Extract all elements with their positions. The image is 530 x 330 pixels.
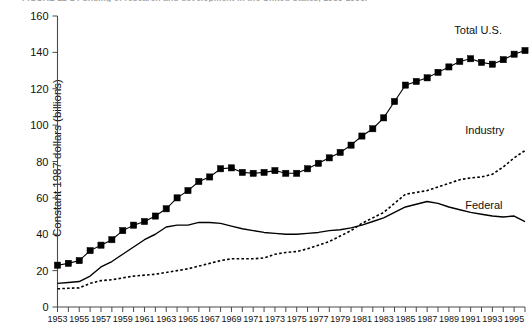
x-tick-label: 1985 (395, 314, 415, 324)
data-point-marker (163, 206, 169, 212)
y-tick-label: 60 (36, 192, 48, 204)
data-point-marker (294, 170, 300, 176)
y-tick-label: 140 (30, 46, 48, 58)
series-layer (54, 47, 528, 288)
x-tick-label: 1993 (482, 314, 502, 324)
data-point-marker (489, 61, 495, 67)
x-tick-label: 1963 (156, 314, 176, 324)
data-point-marker (446, 64, 452, 70)
data-point-marker (370, 126, 376, 132)
x-tick-label: 1959 (113, 314, 133, 324)
x-tick-label: 1969 (221, 314, 241, 324)
rd-funding-line-chart: 020406080100120140160 195319551957195919… (0, 0, 530, 330)
y-axis-group: 020406080100120140160 (30, 10, 57, 313)
x-tick-label: 1987 (417, 314, 437, 324)
data-point-marker (424, 75, 430, 81)
y-tick-label: 80 (36, 156, 48, 168)
data-point-marker (250, 170, 256, 176)
data-point-marker (76, 258, 82, 264)
x-tick-label: 1977 (308, 314, 328, 324)
x-tick-label: 1975 (287, 314, 307, 324)
data-point-marker (65, 260, 71, 266)
y-tick-label: 160 (30, 10, 48, 22)
series-markers-total-u-s (54, 47, 528, 268)
x-tick-label: 1973 (265, 314, 285, 324)
data-point-marker (98, 242, 104, 248)
x-tick-label: 1983 (374, 314, 394, 324)
data-point-marker (283, 170, 289, 176)
data-point-marker (152, 213, 158, 219)
y-tick-label: 100 (30, 119, 48, 131)
x-tick-label: 1961 (134, 314, 154, 324)
x-tick-group: 1953195519571959196119631965196719691971… (47, 307, 525, 324)
data-point-marker (337, 149, 343, 155)
data-point-marker (500, 57, 506, 63)
data-point-marker (185, 188, 191, 194)
data-point-marker (435, 69, 441, 75)
y-tick-label: 40 (36, 228, 48, 240)
figure-container: FIGURE 12-1 Funding of research and deve… (0, 0, 530, 330)
y-tick-label: 0 (42, 301, 48, 313)
data-point-marker (207, 174, 213, 180)
data-point-marker (87, 248, 93, 254)
data-point-marker (141, 218, 147, 224)
data-point-marker (304, 166, 310, 172)
data-point-marker (359, 133, 365, 139)
x-tick-label: 1957 (91, 314, 111, 324)
data-point-marker (217, 166, 223, 172)
y-tick-group: 020406080100120140160 (30, 10, 57, 313)
data-point-marker (261, 169, 267, 175)
data-point-marker (54, 262, 60, 268)
series-line-federal (58, 202, 526, 284)
data-point-marker (413, 78, 419, 84)
x-tick-label: 1991 (461, 314, 481, 324)
y-tick-label: 120 (30, 83, 48, 95)
data-point-marker (381, 115, 387, 121)
x-tick-label: 1967 (200, 314, 220, 324)
data-point-marker (131, 222, 137, 228)
series-label-total-u-s: Total U.S. (454, 24, 502, 36)
data-point-marker (315, 160, 321, 166)
x-tick-label: 1981 (352, 314, 372, 324)
series-line-industry (58, 151, 526, 289)
data-point-marker (468, 56, 474, 62)
data-point-marker (391, 98, 397, 104)
x-tick-label: 1971 (243, 314, 263, 324)
x-tick-label: 1979 (330, 314, 350, 324)
data-point-marker (239, 169, 245, 175)
x-tick-label: 1955 (69, 314, 89, 324)
data-point-marker (457, 58, 463, 64)
data-point-marker (522, 47, 528, 53)
data-point-marker (272, 167, 278, 173)
data-point-marker (196, 178, 202, 184)
data-point-marker (478, 59, 484, 65)
x-tick-label: 1995 (504, 314, 524, 324)
data-point-marker (326, 155, 332, 161)
series-line-total-u-s (58, 51, 526, 266)
data-point-marker (174, 195, 180, 201)
series-label-industry: Industry (465, 124, 505, 136)
series-label-layer: Total U.S.IndustryFederal (454, 24, 505, 211)
data-point-marker (228, 165, 234, 171)
data-point-marker (109, 237, 115, 243)
x-axis-group: 1953195519571959196119631965196719691971… (47, 307, 525, 324)
y-tick-label: 20 (36, 265, 48, 277)
data-point-marker (511, 51, 517, 57)
data-point-marker (402, 82, 408, 88)
x-tick-label: 1965 (178, 314, 198, 324)
x-tick-label: 1953 (47, 314, 67, 324)
x-tick-label: 1989 (439, 314, 459, 324)
data-point-marker (348, 142, 354, 148)
series-label-federal: Federal (465, 199, 502, 211)
data-point-marker (120, 228, 126, 234)
